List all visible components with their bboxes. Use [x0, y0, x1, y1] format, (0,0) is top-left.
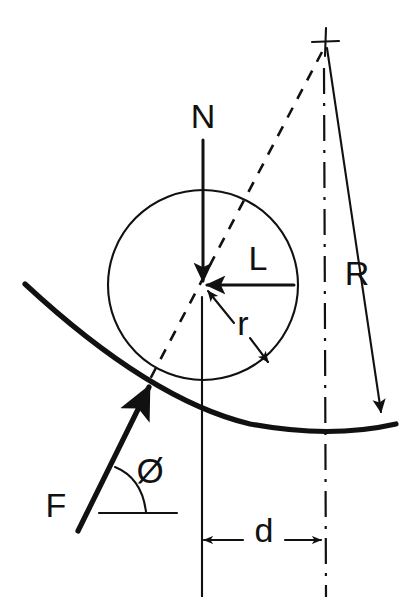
curved-surface	[25, 284, 396, 432]
label-surface-radius: R	[345, 254, 370, 292]
surface-radius-line	[327, 48, 381, 412]
diagram-canvas: N L F Ø r R d	[0, 0, 415, 597]
plus-mark-icon	[312, 28, 339, 56]
force-diagram-svg: N L F Ø r R d	[0, 0, 415, 597]
label-angle: Ø	[136, 451, 163, 490]
label-cylinder-radius: r	[237, 304, 248, 342]
label-applied-force: F	[46, 486, 67, 524]
surface-center-axis	[324, 68, 326, 597]
construction-dashed-line	[148, 52, 322, 383]
label-normal-force: N	[191, 97, 216, 135]
label-offset-distance: d	[255, 511, 274, 549]
label-lift-force: L	[249, 239, 268, 277]
